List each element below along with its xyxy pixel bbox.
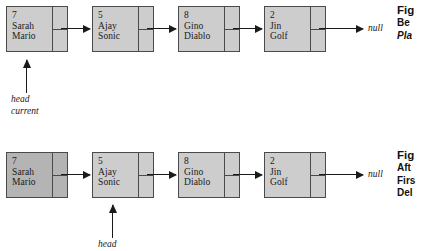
null-label: null xyxy=(368,169,383,179)
node-data-cell: 7 Sarah Mario xyxy=(7,7,53,51)
node-pointer-cell xyxy=(139,153,153,197)
node-first-name: Sarah xyxy=(12,167,52,178)
list-node: 5 Ajay Sonic xyxy=(92,152,154,198)
caption-line: Pla xyxy=(397,30,428,43)
node-data-cell: 8 Gino Diablo xyxy=(179,7,225,51)
node-first-name: Jin xyxy=(270,167,310,178)
next-pointer-arrow xyxy=(233,28,262,29)
node-key: 5 xyxy=(98,156,138,167)
head-pointer-arrow xyxy=(26,60,27,93)
list-node: 5 Ajay Sonic xyxy=(92,6,154,52)
pointer-divider xyxy=(225,175,239,176)
node-last-name: Golf xyxy=(270,177,310,188)
pointer-divider xyxy=(139,175,153,176)
node-key: 7 xyxy=(12,10,52,21)
pointer-divider xyxy=(53,29,67,30)
node-data-cell: 5 Ajay Sonic xyxy=(93,7,139,51)
next-pointer-arrow xyxy=(147,28,176,29)
node-data-cell: 2 Jin Golf xyxy=(265,7,311,51)
node-key: 2 xyxy=(270,10,310,21)
node-first-name: Gino xyxy=(184,21,224,32)
null-label: null xyxy=(368,23,383,33)
figure-caption-top: Fig Be Pla xyxy=(397,4,428,42)
node-pointer-cell xyxy=(311,153,325,197)
node-key: 2 xyxy=(270,156,310,167)
node-pointer-cell xyxy=(225,153,239,197)
node-last-name: Diablo xyxy=(184,177,224,188)
node-first-name: Sarah xyxy=(12,21,52,32)
pointer-divider xyxy=(139,29,153,30)
node-pointer-cell xyxy=(311,7,325,51)
pointer-divider xyxy=(311,29,325,30)
caption-line: Del xyxy=(397,187,428,200)
list-node: 8 Gino Diablo xyxy=(178,6,240,52)
null-pointer-arrow xyxy=(319,174,363,175)
next-pointer-arrow xyxy=(233,174,262,175)
node-key: 8 xyxy=(184,156,224,167)
list-node: 7 Sarah Mario xyxy=(6,6,68,52)
node-data-cell: 5 Ajay Sonic xyxy=(93,153,139,197)
caption-line: Be xyxy=(397,17,428,30)
node-last-name: Mario xyxy=(12,31,52,42)
pointer-label-head: head xyxy=(98,239,116,251)
next-pointer-arrow xyxy=(61,28,90,29)
head-pointer-label: head current xyxy=(11,94,39,117)
node-data-cell: 2 Jin Golf xyxy=(265,153,311,197)
head-pointer-label: head xyxy=(98,239,116,251)
node-first-name: Ajay xyxy=(98,167,138,178)
caption-line: Aft xyxy=(397,162,428,175)
next-pointer-arrow xyxy=(147,174,176,175)
caption-title: Fig xyxy=(397,4,428,17)
list-node-deleted: 7 Sarah Mario xyxy=(6,152,68,198)
pointer-divider xyxy=(53,175,67,176)
list-node: 2 Jin Golf xyxy=(264,152,326,198)
pointer-divider xyxy=(311,175,325,176)
node-key: 8 xyxy=(184,10,224,21)
list-node: 2 Jin Golf xyxy=(264,6,326,52)
node-last-name: Sonic xyxy=(98,31,138,42)
list-node: 8 Gino Diablo xyxy=(178,152,240,198)
node-last-name: Golf xyxy=(270,31,310,42)
head-pointer-arrow xyxy=(112,205,113,238)
pointer-divider xyxy=(225,29,239,30)
node-first-name: Jin xyxy=(270,21,310,32)
node-data-cell: 8 Gino Diablo xyxy=(179,153,225,197)
node-last-name: Diablo xyxy=(184,31,224,42)
node-first-name: Gino xyxy=(184,167,224,178)
figure-caption-bottom: Fig Aft Firs Del xyxy=(397,149,428,200)
node-key: 5 xyxy=(98,10,138,21)
node-last-name: Sonic xyxy=(98,177,138,188)
caption-title: Fig xyxy=(397,149,428,162)
node-pointer-cell xyxy=(225,7,239,51)
node-first-name: Ajay xyxy=(98,21,138,32)
figure-canvas: 7 Sarah Mario 5 Ajay Sonic 8 Gino Diablo xyxy=(0,0,428,251)
node-last-name: Mario xyxy=(12,177,52,188)
node-pointer-cell xyxy=(53,7,67,51)
node-pointer-cell xyxy=(53,153,67,197)
node-pointer-cell xyxy=(139,7,153,51)
pointer-label-head: head xyxy=(11,94,39,106)
pointer-label-current: current xyxy=(11,106,39,118)
null-pointer-arrow xyxy=(319,28,363,29)
caption-line: Firs xyxy=(397,175,428,188)
node-key: 7 xyxy=(12,156,52,167)
node-data-cell: 7 Sarah Mario xyxy=(7,153,53,197)
next-pointer-arrow xyxy=(61,174,90,175)
